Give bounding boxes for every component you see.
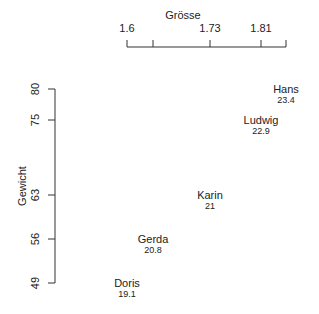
point-name: Gerda: [138, 233, 169, 245]
point-name: Ludwig: [244, 114, 279, 126]
x-tick-label: 1.73: [199, 22, 220, 34]
point-ludwig: Ludwig 22.9: [244, 114, 279, 136]
point-doris: Doris 19.1: [114, 277, 140, 299]
point-name: Hans: [273, 83, 299, 95]
x-axis: 1.6 1.73 1.81 Grösse: [119, 9, 286, 47]
point-hans: Hans 23.4: [273, 83, 299, 105]
y-axis: 80 75 63 56 49 Gewicht: [16, 83, 55, 289]
point-value: 21: [205, 201, 215, 211]
y-tick-label: 49: [29, 277, 41, 289]
x-tick-label: 1.81: [250, 22, 271, 34]
x-tick-label: 1.6: [119, 22, 134, 34]
point-name: Doris: [114, 277, 140, 289]
point-karin: Karin 21: [197, 189, 223, 211]
y-axis-title: Gewicht: [16, 166, 28, 206]
y-tick-label: 63: [29, 189, 41, 201]
point-value: 19.1: [118, 289, 136, 299]
point-value: 23.4: [277, 95, 295, 105]
x-axis-title: Grösse: [165, 9, 200, 21]
y-tick-label: 80: [29, 83, 41, 95]
scatter-chart: 1.6 1.73 1.81 Grösse 80 75 63 56 49 Gewi…: [0, 0, 319, 314]
point-name: Karin: [197, 189, 223, 201]
y-tick-label: 56: [29, 233, 41, 245]
point-gerda: Gerda 20.8: [138, 233, 169, 255]
point-value: 20.8: [144, 245, 162, 255]
y-tick-label: 75: [29, 114, 41, 126]
point-value: 22.9: [252, 126, 270, 136]
